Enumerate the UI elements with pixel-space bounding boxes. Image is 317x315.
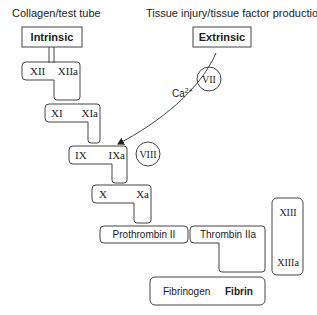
factor-xa: Xa: [136, 188, 149, 200]
factor-ix-step: IX IXa: [69, 146, 127, 183]
factor-xiia: XIIa: [58, 65, 78, 77]
coagulation-cascade-diagram: Collagen/test tube Tissue injury/tissue …: [0, 0, 317, 315]
factor-ix: IX: [75, 149, 87, 161]
extrinsic-trigger-label: Tissue injury/tissue factor production: [146, 7, 317, 19]
factor-xi-step: XI XIa: [45, 104, 100, 143]
factor-viii: VIII: [139, 149, 156, 160]
factor-xiii-box: XIII XIIIa: [272, 198, 303, 275]
factor-vii: VII: [202, 74, 216, 85]
factor-xia: XIa: [82, 107, 99, 119]
factor-xii: XII: [30, 65, 46, 77]
prothrombin-label: Prothrombin II: [113, 229, 176, 240]
calcium-superscript: 2+: [185, 87, 193, 94]
intrinsic-pathway-box: Intrinsic: [22, 27, 82, 47]
fibrin-label: Fibrin: [225, 286, 253, 297]
intrinsic-label: Intrinsic: [31, 31, 74, 43]
svg-text:Prothrombin II: Prothrombin II: [113, 229, 176, 240]
fibrinogen-box: Fibrinogen Fibrin: [150, 277, 265, 305]
calcium-label: Ca2+: [172, 87, 193, 99]
extrinsic-arrow: [118, 53, 216, 144]
factor-viii-circle: VIII: [136, 142, 160, 166]
extrinsic-pathway-box: Extrinsic: [193, 27, 251, 47]
intrinsic-trigger-label: Collagen/test tube: [12, 7, 101, 19]
calcium-text: Ca: [172, 88, 185, 99]
fibrinogen-label: Fibrinogen: [163, 286, 210, 297]
thrombin-label: Thrombin IIa: [200, 229, 257, 240]
factor-ixa: IXa: [109, 149, 126, 161]
prothrombin-box: Prothrombin II: [100, 226, 188, 243]
factor-xiii: XIII: [279, 207, 296, 218]
factor-xiiia: XIIIa: [277, 257, 299, 268]
thrombin-step: Thrombin IIa: [190, 226, 265, 272]
factor-x: X: [99, 188, 107, 200]
factor-xi: XI: [51, 107, 63, 119]
factor-x-step: X Xa: [92, 185, 151, 223]
factor-xii-step: XII XIIa: [22, 62, 80, 100]
extrinsic-label: Extrinsic: [199, 31, 245, 43]
